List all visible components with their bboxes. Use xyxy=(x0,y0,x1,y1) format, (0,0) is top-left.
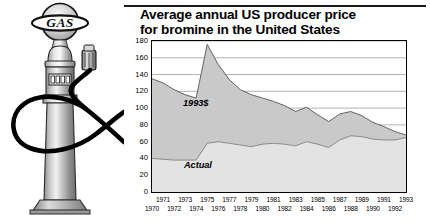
y-tick-label: 60 xyxy=(128,138,148,146)
x-axis-labels-lower: 1970197219741976197819801982198419861988… xyxy=(124,205,430,214)
x-tick-label: 1989 xyxy=(351,196,373,203)
x-tick-label: 1993 xyxy=(395,196,417,203)
x-tick-label: 1971 xyxy=(152,196,174,203)
x-tick-label: 1991 xyxy=(373,196,395,203)
y-tick-label: 160 xyxy=(128,54,148,62)
series-label-1993dollars: 1993$ xyxy=(183,98,208,108)
x-tick-label: 1979 xyxy=(240,196,262,203)
x-tick-label: 1983 xyxy=(285,196,307,203)
pump-nozzle xyxy=(82,45,96,70)
x-tick-label: 1992 xyxy=(384,205,406,212)
x-tick-label: 1977 xyxy=(218,196,240,203)
x-tick-label: 1978 xyxy=(229,205,251,212)
y-tick-label: 120 xyxy=(128,87,148,95)
x-axis-labels-upper: 1971197319751977197919811983198519871989… xyxy=(124,196,430,205)
x-tick-label: 1990 xyxy=(362,205,384,212)
x-tick-label: 1986 xyxy=(318,205,340,212)
screenshot-root: GAS xyxy=(0,0,430,224)
y-axis: 020406080100120140160180 xyxy=(124,0,148,224)
x-tick-label: 1972 xyxy=(163,205,185,212)
chart-title: Average annual US producer price for bro… xyxy=(140,8,430,37)
chart-figure: Average annual US producer price for bro… xyxy=(124,0,430,224)
x-tick-label: 1973 xyxy=(174,196,196,203)
x-tick-label: 1975 xyxy=(196,196,218,203)
x-tick-label: 1988 xyxy=(340,205,362,212)
x-tick-label: 1984 xyxy=(296,205,318,212)
x-tick-label: 1980 xyxy=(251,205,273,212)
y-tick-label: 100 xyxy=(128,104,148,112)
plot-area xyxy=(151,40,407,193)
x-tick-label: 1987 xyxy=(329,196,351,203)
x-tick-label: 1976 xyxy=(207,205,229,212)
x-tick-label: 1985 xyxy=(307,196,329,203)
x-tick-label: 1970 xyxy=(141,205,163,212)
chart-title-line2: for bromine in the United States xyxy=(140,23,430,38)
x-tick-label: 1981 xyxy=(263,196,285,203)
y-tick-label: 0 xyxy=(128,188,148,196)
pump-globe-sign: GAS xyxy=(32,4,88,41)
svg-text:GAS: GAS xyxy=(46,15,73,30)
chart-title-line1: Average annual US producer price xyxy=(140,7,356,22)
series-label-actual: Actual xyxy=(184,160,212,170)
x-tick-label: 1982 xyxy=(274,205,296,212)
pump-display-window xyxy=(49,74,71,85)
pump-dome xyxy=(48,46,72,62)
x-tick-label: 1974 xyxy=(185,205,207,212)
y-tick-label: 40 xyxy=(128,154,148,162)
y-tick-label: 80 xyxy=(128,121,148,129)
y-tick-label: 140 xyxy=(128,71,148,79)
gas-pump-illustration: GAS xyxy=(0,0,124,224)
y-tick-label: 20 xyxy=(128,171,148,179)
y-tick-label: 180 xyxy=(128,37,148,45)
